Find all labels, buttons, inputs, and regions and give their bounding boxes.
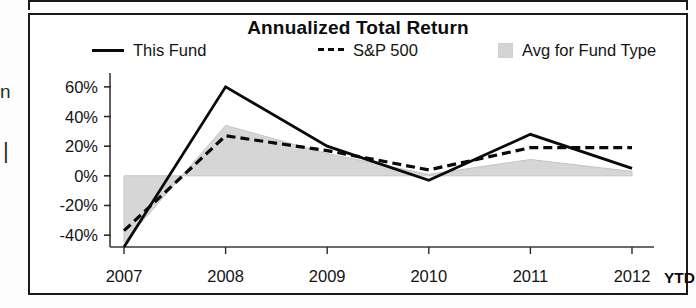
solid-line-icon [92,49,124,52]
y-axis-label: -40% [32,226,98,245]
series-line-s-p-500 [124,136,632,231]
y-axis-label: 60% [32,77,98,96]
edge-text-fragment-n: n [0,82,11,101]
edge-text-fragment-bar: | [3,140,9,162]
x-axis-label: 2012 [614,267,651,286]
chart-legend: This Fund S&P 500 Avg for Fund Type [30,41,686,65]
legend-item-avg-fund-type: Avg for Fund Type [498,41,656,60]
legend-label-sp-500: S&P 500 [353,41,418,60]
x-axis-label: 2007 [106,267,143,286]
area-swatch-icon [498,43,513,58]
legend-item-this-fund: This Fund [92,41,206,60]
y-axis-label: 40% [32,107,98,126]
y-axis-label: 20% [32,137,98,156]
y-axis-label: 0% [32,166,98,185]
plot-area-wrapper: 60%40%20%0%-20%-40% YTD 2007200820092010… [30,71,690,295]
scan-top-border [28,0,688,10]
x-axis-label: 2008 [207,267,244,286]
legend-label-avg-fund-type: Avg for Fund Type [522,41,656,60]
y-axis-label: -20% [32,196,98,215]
x-axis-label: 2010 [410,267,447,286]
chart-panel: Annualized Total Return This Fund S&P 50… [28,13,688,295]
legend-label-this-fund: This Fund [133,41,206,60]
chart-title: Annualized Total Return [30,17,686,39]
y-axis-labels: 60%40%20%0%-20%-40% [30,71,98,261]
ytd-note: YTD [664,269,695,287]
plot-canvas [98,71,658,261]
screenshot-page: n | Annualized Total Return This Fund S&… [0,0,696,308]
legend-item-sp-500: S&P 500 [318,41,418,60]
dashed-line-icon [318,48,344,51]
x-axis-label: 2011 [513,267,548,286]
x-axis-labels: YTD 200720082009201020112012 [30,261,690,295]
chart-svg [98,71,658,261]
x-axis-label: 2009 [309,267,346,286]
